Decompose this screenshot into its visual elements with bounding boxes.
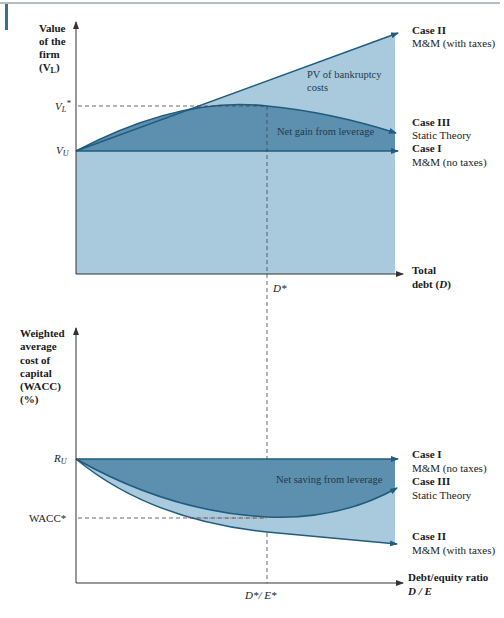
top-y-axis-label-line1: Value [39,22,66,34]
bottom-x-axis-label-line1: Debt/equity ratio [408,571,489,583]
top-x-axis-label-line2: debt (D) [412,278,451,291]
bottom-case-ii-subtitle: M&M (with taxes) [412,544,495,557]
top-x-axis-label-line1: Total [412,264,436,276]
net-gain-label: Net gain from leverage [277,126,374,137]
accent-bar [5,4,8,30]
bottom-y-axis-label-line4: capital [20,367,52,379]
bottom-case-ii-title: Case II [412,530,446,542]
bottom-case-i-title: Case I [412,448,442,460]
wacc-star-label: WACC* [29,512,66,524]
d-star-label: D* [272,282,287,294]
bottom-y-axis-label-line5: (WACC) [20,380,61,393]
vl-star-label: VL* [55,98,71,114]
bottom-case-iii-subtitle: Static Theory [412,489,472,501]
vu-label: VU [56,144,70,158]
net-saving-label: Net saving from leverage [276,474,383,485]
capital-structure-diagram: Value of the firm (VL) VL* VU D* PV of b… [0,0,504,618]
bottom-y-axis-label-line1: Weighted [20,327,65,339]
top-case-i-title: Case I [412,142,442,154]
bottom-y-axis-label-line2: average [20,340,57,352]
bottom-x-axis-label-line2: D / E [407,585,432,597]
bottom-chart: Weighted average cost of capital (WACC) … [20,327,495,601]
base-value-region [76,151,395,274]
top-y-axis-label-line3: firm [39,48,60,60]
top-case-ii-subtitle: M&M (with taxes) [412,37,495,50]
bottom-y-axis-label-line6: (%) [20,393,39,406]
bottom-y-axis-label-line3: cost of [20,354,51,366]
top-case-iii-title: Case III [412,116,450,128]
bankruptcy-costs-label-line2: costs [307,82,328,93]
top-case-iii-subtitle: Static Theory [412,129,472,141]
bankruptcy-costs-label-line1: PV of bankruptcy [307,69,382,80]
top-case-i-subtitle: M&M (no taxes) [412,156,487,169]
ru-label: RU [53,452,68,466]
top-y-axis-label-line2: of the [39,35,66,47]
de-star-label: D*/ E* [244,589,277,601]
bottom-case-i-subtitle: M&M (no taxes) [412,462,487,475]
top-y-axis-label-line4: (VL) [39,61,60,75]
top-case-ii-title: Case II [412,24,446,36]
bottom-case-iii-title: Case III [412,475,450,487]
